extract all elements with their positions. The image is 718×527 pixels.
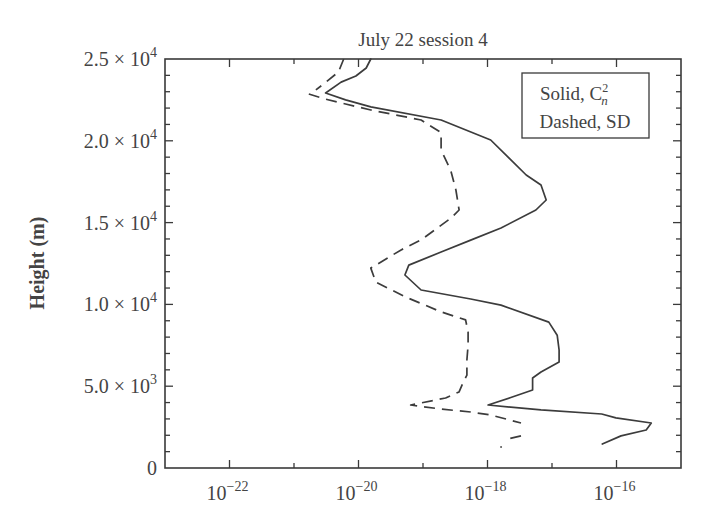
legend-entry-solid: Solid, C2n [540, 81, 608, 108]
x-tick-label: 10−16 [594, 479, 636, 504]
y-tick-label: 0 [147, 457, 157, 479]
legend: Solid, C2n Dashed, SD [522, 73, 649, 138]
y-tick-label: 1.0 × 104 [84, 290, 157, 315]
dashed-curve [316, 59, 344, 90]
dashed-curve [504, 436, 521, 440]
y-axis-label: Height (m) [26, 217, 49, 310]
dashed-curve [309, 94, 521, 423]
chart-title: July 22 session 4 [358, 29, 488, 50]
y-tick-label: 1.5 × 104 [84, 209, 157, 234]
legend-entry-dashed: Dashed, SD [540, 111, 631, 132]
y-tick-label: 2.5 × 104 [84, 45, 157, 70]
x-tick-label: 10−18 [465, 479, 507, 504]
x-tick-label: 10−22 [207, 479, 249, 504]
x-tick-label: 10−20 [336, 479, 378, 504]
chart-svg: July 22 session 4 10−2210−2010−1810−1605… [0, 0, 718, 527]
y-tick-label: 2.0 × 104 [84, 127, 157, 152]
y-tick-label: 5.0 × 103 [84, 372, 157, 397]
